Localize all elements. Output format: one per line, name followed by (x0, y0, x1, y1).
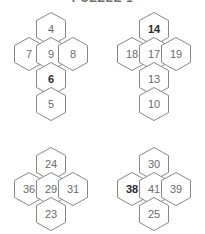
cluster-top-right: 141817191310 (103, 4, 205, 122)
cluster-top-left: 479865 (0, 4, 102, 122)
hex-cell-tr-bottom[interactable]: 10 (139, 87, 169, 121)
hex-cell-br-bottom[interactable]: 25 (139, 197, 169, 231)
cluster-bottom-left: 2436293123 (0, 139, 102, 234)
hex-value-label: 23 (36, 197, 66, 231)
hex-value-label: 25 (139, 197, 169, 231)
hex-cell-bl-bottom[interactable]: 23 (36, 197, 66, 231)
hex-value-label: 5 (36, 87, 66, 121)
hexagon-puzzle-canvas: PUZZLE 1 4798651418171913102436293123303… (0, 0, 205, 234)
hex-value-label: 10 (139, 87, 169, 121)
hex-cell-tl-bottom[interactable]: 5 (36, 87, 66, 121)
cluster-bottom-right: 3038413925 (103, 139, 205, 234)
